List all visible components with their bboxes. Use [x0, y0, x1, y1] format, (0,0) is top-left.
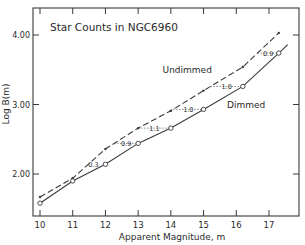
circle-marker-icon [201, 107, 205, 111]
circle-marker-icon [241, 84, 245, 88]
annotations: 0.30.91.11.01.00.9UndimmedDimmed [88, 50, 277, 169]
cross-marker-icon [278, 32, 280, 34]
plot-border [33, 8, 299, 216]
x-tick-label: 14 [165, 220, 176, 230]
difference-label: 0.3 [88, 161, 98, 169]
y-tick-label: 2.00 [12, 170, 30, 179]
star-counts-chart: 1011121314151617 2.003.004.00 0.30.91.11… [0, 0, 305, 245]
x-tick-label: 12 [100, 220, 111, 230]
circle-marker-icon [71, 179, 75, 183]
cross-marker-icon [104, 148, 106, 150]
x-tick-label: 10 [35, 220, 46, 230]
x-tick-label: 13 [133, 220, 144, 230]
circle-marker-icon [38, 201, 42, 205]
plot-frame [33, 8, 299, 216]
y-tick-label: 3.00 [12, 101, 30, 110]
circle-marker-icon [136, 141, 140, 145]
undimmed-line [40, 33, 279, 197]
x-tick-label: 15 [198, 220, 209, 230]
difference-label: 1.0 [183, 106, 193, 114]
cross-marker-icon [170, 110, 172, 112]
difference-label: 1.0 [221, 83, 231, 91]
data-series [38, 32, 288, 206]
y-axis-label: Log B(m) [1, 84, 11, 125]
undimmed-series-label: Undimmed [163, 65, 212, 75]
x-tick-label: 11 [67, 220, 78, 230]
chart-title: Star Counts in NGC6960 [50, 21, 178, 33]
difference-label: 0.9 [263, 50, 273, 58]
cross-marker-icon [39, 196, 41, 198]
x-axis-label: Apparent Magnitude, m [119, 232, 225, 242]
dimmed-series-label: Dimmed [227, 100, 265, 110]
difference-label: 1.1 [149, 125, 159, 133]
x-tick-label: 16 [231, 220, 242, 230]
cross-marker-icon [202, 89, 204, 91]
cross-marker-icon [242, 66, 244, 68]
circle-marker-icon [277, 51, 281, 55]
circle-marker-icon [169, 126, 173, 130]
x-tick-label: 17 [264, 220, 275, 230]
y-tick-label: 4.00 [12, 31, 30, 40]
difference-label: 0.9 [121, 140, 131, 148]
circle-marker-icon [103, 162, 107, 166]
